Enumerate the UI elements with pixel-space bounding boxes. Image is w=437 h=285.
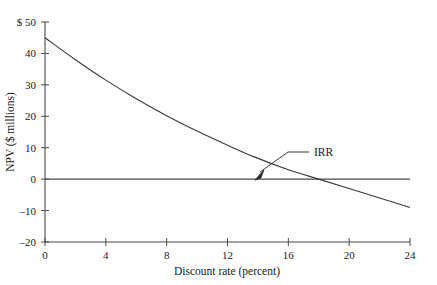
y-tick-label: 10 — [25, 142, 37, 154]
x-tick-label: 4 — [103, 249, 109, 261]
x-tick-label: 16 — [283, 249, 295, 261]
y-axis-ticks: –20–10010203040$ 50 — [17, 16, 49, 248]
npv-curve — [45, 38, 410, 208]
x-tick-label: 12 — [222, 249, 233, 261]
y-tick-label: –10 — [19, 205, 37, 217]
y-tick-label: 0 — [31, 173, 37, 185]
y-tick-label: 20 — [25, 110, 37, 122]
y-axis-title: NPV ($ millions) — [4, 92, 17, 172]
irr-arrow-shaft — [260, 152, 288, 172]
x-tick-label: 20 — [344, 249, 356, 261]
y-tick-label: 40 — [25, 47, 37, 59]
y-tick-label: $ 50 — [17, 16, 37, 28]
y-tick-label: –20 — [19, 236, 37, 248]
x-tick-label: 0 — [42, 249, 48, 261]
x-axis-title: Discount rate (percent) — [174, 265, 280, 278]
irr-annotation: IRR — [255, 146, 334, 180]
irr-label: IRR — [314, 146, 334, 158]
x-tick-label: 8 — [164, 249, 170, 261]
chart-canvas: –20–10010203040$ 50 04812162024 IRR Disc… — [0, 0, 437, 285]
npv-profile-chart: –20–10010203040$ 50 04812162024 IRR Disc… — [0, 0, 437, 285]
y-tick-label: 30 — [25, 79, 37, 91]
x-tick-label: 24 — [405, 249, 417, 261]
